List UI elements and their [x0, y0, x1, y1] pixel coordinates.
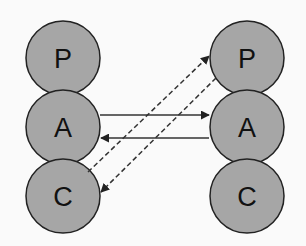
- node-label: A: [54, 113, 72, 143]
- right-column: P A C: [210, 21, 284, 233]
- edge-p-to-c-dashed: [101, 78, 216, 192]
- edges: [88, 56, 216, 192]
- node-label: A: [238, 113, 256, 143]
- node-label: P: [238, 44, 256, 74]
- node-label: C: [237, 182, 257, 212]
- edge-c-to-p-dashed: [88, 56, 209, 172]
- node-label: C: [53, 182, 73, 212]
- diagram-canvas: P A C P A C: [0, 0, 306, 246]
- node-label: P: [54, 44, 72, 74]
- node-left-p: P: [26, 21, 100, 95]
- node-left-a: A: [26, 90, 100, 164]
- left-column: P A C: [26, 21, 100, 233]
- node-right-p: P: [210, 21, 284, 95]
- node-right-a: A: [210, 90, 284, 164]
- node-right-c: C: [210, 159, 284, 233]
